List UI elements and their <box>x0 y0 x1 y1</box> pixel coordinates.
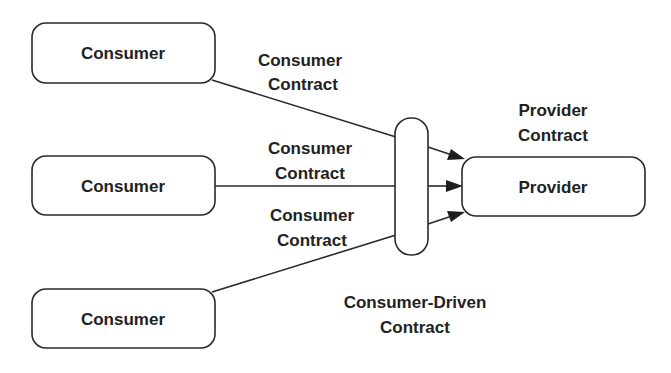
consumer-driven-contract-pill <box>395 118 428 255</box>
consumer-driven-contract-label-line2: Contract <box>380 318 450 337</box>
arrow-to-provider-2 <box>428 180 463 192</box>
consumer-contract-label-3-line1: Consumer <box>270 206 354 225</box>
consumer-node-1-label: Consumer <box>81 44 165 63</box>
arrowhead-icon <box>446 180 463 192</box>
arrow-to-provider-1 <box>428 147 465 160</box>
consumer-node-3: Consumer <box>32 289 215 348</box>
consumer-node-3-label: Consumer <box>81 310 165 329</box>
arrow-to-provider-3 <box>428 211 465 224</box>
diagram-canvas: Consumer Consumer Consumer Provider Cons… <box>0 0 671 373</box>
consumer-contract-label-3: Consumer Contract <box>270 206 354 250</box>
provider-node: Provider <box>462 157 645 216</box>
provider-contract-label: Provider Contract <box>518 101 588 145</box>
consumer-contract-label-1-line1: Consumer <box>258 51 342 70</box>
consumer-driven-contract-label: Consumer-Driven Contract <box>344 293 487 337</box>
consumer-contract-label-1: Consumer Contract <box>258 51 342 94</box>
consumer-contract-label-3-line2: Contract <box>277 231 347 250</box>
consumer-node-1: Consumer <box>32 23 215 83</box>
provider-contract-label-line2: Contract <box>518 126 588 145</box>
consumer-driven-contract-diagram: Consumer Consumer Consumer Provider Cons… <box>0 0 671 373</box>
arrowhead-icon <box>447 149 465 160</box>
consumer-node-2: Consumer <box>32 156 215 215</box>
consumer-node-2-label: Consumer <box>81 177 165 196</box>
consumer-driven-contract-label-line1: Consumer-Driven <box>344 293 487 312</box>
consumer-contract-label-1-line2: Contract <box>268 75 338 94</box>
consumer-contract-label-2-line2: Contract <box>275 164 345 183</box>
consumer-contract-label-2-line1: Consumer <box>268 139 352 158</box>
provider-node-label: Provider <box>519 178 588 197</box>
consumer-contract-label-2: Consumer Contract <box>268 139 352 183</box>
provider-contract-label-line1: Provider <box>519 101 588 120</box>
arrowhead-icon <box>447 211 465 222</box>
